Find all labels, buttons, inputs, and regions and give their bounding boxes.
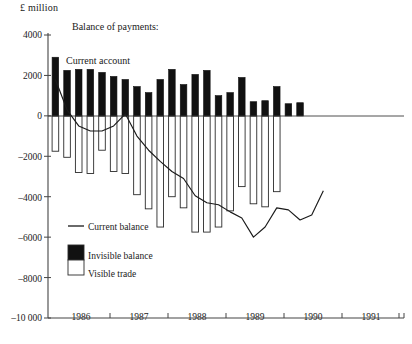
visible-trade-bars	[52, 116, 280, 232]
current-balance-line	[55, 79, 323, 237]
chart-figure: £ million 4000 2000 0 –2000 –4000 –6000 …	[0, 0, 412, 344]
axis-lines	[44, 33, 404, 318]
invisible-balance-bars	[52, 57, 303, 116]
legend-swatches	[68, 226, 84, 275]
chart-plot-area	[0, 0, 412, 344]
